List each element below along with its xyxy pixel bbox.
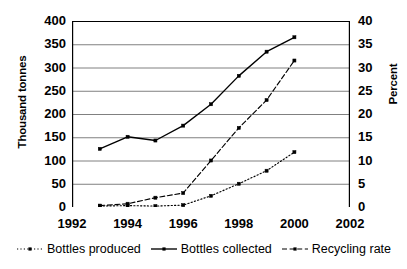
series-line-bottles-produced <box>100 152 295 206</box>
data-point-bottles-produced-1996 <box>182 204 185 207</box>
data-point-bottles-produced-1999 <box>265 169 268 172</box>
plot-svg <box>72 21 350 207</box>
y-axis-right-tick-0: 0 <box>358 199 398 214</box>
y-axis-left-tick-300: 300 <box>22 60 66 75</box>
legend-item-recycling-rate[interactable]: Recycling rate <box>281 242 391 256</box>
data-point-bottles-collected-1998 <box>237 74 240 77</box>
data-point-bottles-produced-2000 <box>293 151 296 154</box>
data-point-bottles-collected-1997 <box>209 103 212 106</box>
legend-item-bottles-collected[interactable]: Bottles collected <box>150 242 272 256</box>
legend-swatch-dotted-line-icon <box>16 244 44 254</box>
data-point-recycling-rate-1999 <box>265 99 268 102</box>
x-axis-tick-2000: 2000 <box>271 216 317 231</box>
legend-item-bottles-produced[interactable]: Bottles produced <box>16 242 141 256</box>
y-axis-right-tick-15: 15 <box>358 129 398 144</box>
x-axis-tick-1992: 1992 <box>49 216 95 231</box>
plot-area <box>72 21 350 207</box>
y-axis-left-tick-400: 400 <box>22 13 66 28</box>
chart-container: Thousand tonnes Percent 0501001502002503… <box>0 0 407 269</box>
legend-swatch-solid-line-icon <box>150 244 178 254</box>
y-axis-left-tick-100: 100 <box>22 153 66 168</box>
data-point-recycling-rate-1995 <box>154 196 157 199</box>
y-axis-right-tick-25: 25 <box>358 83 398 98</box>
y-axis-right-tick-20: 20 <box>358 106 398 121</box>
data-point-recycling-rate-1994 <box>126 202 129 205</box>
x-axis-tick-1996: 1996 <box>160 216 206 231</box>
legend-swatch-dashed-line-icon <box>281 244 309 254</box>
legend-label: Bottles collected <box>181 242 272 256</box>
y-axis-left-tick-50: 50 <box>22 176 66 191</box>
y-axis-right-tick-35: 35 <box>358 36 398 51</box>
y-axis-right-tick-30: 30 <box>358 60 398 75</box>
y-axis-right-tick-10: 10 <box>358 153 398 168</box>
legend-label: Bottles produced <box>47 242 141 256</box>
chart-legend: Bottles producedBottles collectedRecycli… <box>0 242 407 256</box>
y-axis-left-tick-0: 0 <box>22 199 66 214</box>
y-axis-left-tick-250: 250 <box>22 83 66 98</box>
data-point-bottles-collected-1995 <box>154 139 157 142</box>
data-point-bottles-collected-2000 <box>293 36 296 39</box>
data-point-recycling-rate-1993 <box>98 204 101 207</box>
y-axis-left-tick-200: 200 <box>22 106 66 121</box>
y-axis-right-tick-5: 5 <box>358 176 398 191</box>
data-point-recycling-rate-1997 <box>209 159 212 162</box>
data-point-bottles-collected-1994 <box>126 135 129 138</box>
y-axis-right-tick-40: 40 <box>358 13 398 28</box>
data-point-bottles-produced-1998 <box>237 182 240 185</box>
data-point-bottles-produced-1995 <box>154 205 157 207</box>
data-point-recycling-rate-1998 <box>237 126 240 129</box>
data-point-recycling-rate-1996 <box>182 192 185 195</box>
data-point-bottles-produced-1997 <box>209 194 212 197</box>
x-axis-tick-1994: 1994 <box>105 216 151 231</box>
legend-label: Recycling rate <box>312 242 391 256</box>
x-axis-tick-2002: 2002 <box>327 216 373 231</box>
series-line-bottles-collected <box>100 37 295 149</box>
data-point-bottles-collected-1999 <box>265 50 268 53</box>
data-point-recycling-rate-2000 <box>293 59 296 62</box>
x-axis-tick-1998: 1998 <box>216 216 262 231</box>
y-axis-left-tick-150: 150 <box>22 129 66 144</box>
data-point-bottles-collected-1993 <box>98 147 101 150</box>
data-point-bottles-collected-1996 <box>182 124 185 127</box>
y-axis-left-tick-350: 350 <box>22 36 66 51</box>
